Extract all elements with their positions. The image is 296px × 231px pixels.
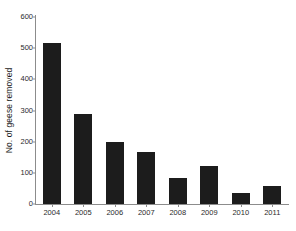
- bar: [263, 186, 281, 204]
- bar: [106, 142, 124, 204]
- bar: [232, 193, 250, 204]
- x-axis-tick-mark: [272, 204, 273, 207]
- bar-group: 2004: [36, 17, 68, 204]
- bar: [200, 166, 218, 204]
- bar-group: 2011: [257, 17, 289, 204]
- x-axis-tick-mark: [146, 204, 147, 207]
- bar-group: 2010: [225, 17, 257, 204]
- bar: [43, 43, 61, 204]
- x-axis-tick-label: 2007: [138, 209, 155, 217]
- x-axis-tick-mark: [241, 204, 242, 207]
- x-axis-tick-label: 2010: [232, 209, 249, 217]
- x-axis-tick-mark: [178, 204, 179, 207]
- x-axis-tick-label: 2006: [106, 209, 123, 217]
- bar-group: 2007: [131, 17, 163, 204]
- x-axis-tick-label: 2004: [43, 209, 60, 217]
- y-axis-title: No. of geese removed: [2, 17, 16, 204]
- bar-group: 2009: [194, 17, 226, 204]
- bar-series: 20042005200620072008200920102011: [36, 17, 288, 204]
- x-axis-line: [35, 204, 289, 205]
- x-axis-tick-label: 2011: [264, 209, 280, 217]
- bar: [137, 152, 155, 204]
- plot-area: 0100200300400500600 20042005200620072008…: [36, 17, 288, 204]
- x-axis-tick-mark: [209, 204, 210, 207]
- bar-group: 2006: [99, 17, 131, 204]
- bar-group: 2008: [162, 17, 194, 204]
- x-axis-tick-label: 2005: [75, 209, 92, 217]
- x-axis-tick-mark: [83, 204, 84, 207]
- bar-chart: No. of geese removed 0100200300400500600…: [0, 0, 296, 231]
- x-axis-tick-mark: [52, 204, 53, 207]
- bar: [74, 114, 92, 204]
- bar: [169, 178, 187, 204]
- x-axis-tick-label: 2008: [169, 209, 186, 217]
- x-axis-tick-mark: [115, 204, 116, 207]
- x-axis-tick-label: 2009: [201, 209, 218, 217]
- bar-group: 2005: [68, 17, 100, 204]
